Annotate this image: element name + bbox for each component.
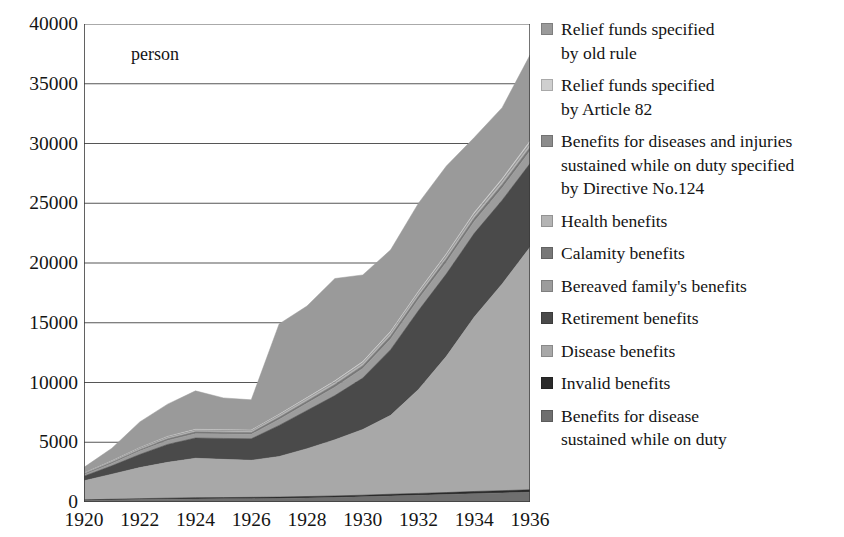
y-axis-tick-label: 35000 [4,74,78,94]
legend-item: Retirement benefits [541,307,844,331]
legend-swatch-icon [541,377,553,389]
legend-item-label: Retirement benefits [561,307,699,331]
legend-swatch-icon [541,135,553,147]
chart-container: 0500010000150002000025000300003500040000… [0,0,540,537]
legend-item-label: Invalid benefits [561,372,670,396]
legend-item-label: Bereaved family's benefits [561,275,747,299]
legend-swatch-icon [541,312,553,324]
stacked-area-svg [84,24,530,502]
legend-item-label: Disease benefits [561,340,675,364]
x-axis-tick-labels: 192019221924192619281930193219341936 [0,509,560,537]
legend-swatch-icon [541,345,553,357]
y-axis-tick-label: 15000 [4,313,78,333]
y-axis-tick-label: 30000 [4,134,78,154]
y-axis-tick-label: 10000 [4,373,78,393]
chart-legend: Relief funds specified by old ruleRelief… [541,18,844,461]
legend-item-label: Benefits for diseases and injuries susta… [561,130,794,201]
legend-swatch-icon [541,23,553,35]
area-bands [84,55,530,502]
x-axis-tick-label: 1932 [399,509,438,531]
legend-item: Relief funds specified by old rule [541,18,844,65]
legend-item-label: Relief funds specified by Article 82 [561,74,715,121]
legend-item: Disease benefits [541,340,844,364]
y-axis-tick-label: 40000 [4,14,78,34]
legend-item: Calamity benefits [541,242,844,266]
x-axis-tick-label: 1924 [176,509,215,531]
x-axis-tick-label: 1922 [120,509,159,531]
y-axis-tick-labels: 0500010000150002000025000300003500040000 [0,0,78,537]
legend-item: Benefits for disease sustained while on … [541,405,844,452]
legend-item: Relief funds specified by Article 82 [541,74,844,121]
legend-item-label: Benefits for disease sustained while on … [561,405,727,452]
legend-swatch-icon [541,79,553,91]
legend-swatch-icon [541,410,553,422]
x-axis-tick-label: 1920 [65,509,104,531]
y-axis-tick-label: 20000 [4,253,78,273]
legend-item: Invalid benefits [541,372,844,396]
legend-swatch-icon [541,280,553,292]
legend-swatch-icon [541,247,553,259]
legend-swatch-icon [541,215,553,227]
x-axis-tick-label: 1936 [511,509,550,531]
y-axis-tick-label: 5000 [4,432,78,452]
legend-item: Benefits for diseases and injuries susta… [541,130,844,201]
legend-item: Bereaved family's benefits [541,275,844,299]
legend-item-label: Health benefits [561,210,667,234]
legend-item-label: Relief funds specified by old rule [561,18,715,65]
legend-item: Health benefits [541,210,844,234]
x-axis-tick-label: 1934 [455,509,494,531]
x-axis-tick-label: 1930 [343,509,382,531]
legend-item-label: Calamity benefits [561,242,685,266]
chart-page: 0500010000150002000025000300003500040000… [0,0,844,537]
x-axis-tick-label: 1928 [288,509,327,531]
plot-area [84,24,530,502]
y-axis-tick-label: 25000 [4,193,78,213]
x-axis-tick-label: 1926 [232,509,271,531]
